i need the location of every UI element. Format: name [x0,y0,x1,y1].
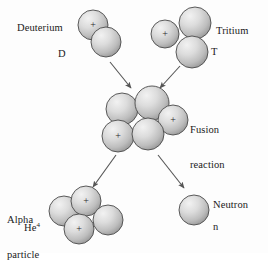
arrow-tritium-to-fusion [160,66,180,88]
label-deuterium-symbol: D [58,48,66,60]
neutron-sphere-tritium-2 [176,36,208,68]
label-neutron-symbol: n [213,221,218,233]
particles-group: ++++++ [49,7,211,244]
label-helium-symbol: He4 [24,222,40,234]
arrow-deuterium-to-fusion [110,62,131,88]
helium-element-symbol: He [24,222,36,233]
proton-charge-sign-tritium-0: + [162,28,168,39]
neutron-sphere-fusion-reaction-4 [132,118,164,150]
proton-charge-sign-deuterium-0: + [90,19,96,30]
neutron-sphere-alpha-particle-2 [93,205,123,235]
proton-charge-sign-fusion-reaction-2: + [170,114,176,125]
proton-charge-sign-alpha-particle-3: + [76,223,82,234]
label-neutron: Neutron [213,199,248,211]
helium-mass-number: 4 [36,221,40,229]
particle-group-fusion-reaction: ++ [102,86,188,152]
label-fusion-line1: Fusion [190,124,225,136]
label-alpha-line2: particle [7,249,39,261]
label-tritium-symbol: T [211,46,218,58]
arrow-fusion-to-alpha [93,155,116,187]
label-fusion-line2: reaction [190,159,225,171]
neutron-sphere-tritium-1 [179,7,211,39]
particle-group-deuterium: + [78,10,121,57]
label-fusion-reaction: Fusion reaction [190,100,225,194]
label-tritium: Tritium [216,25,248,37]
particle-group-neutron [179,195,209,225]
neutron-sphere-neutron-0 [179,195,209,225]
neutron-sphere-deuterium-1 [91,27,121,57]
particle-group-tritium: + [151,7,211,68]
particle-group-alpha-particle: ++ [49,186,123,244]
arrow-fusion-to-neutron [158,155,184,188]
proton-charge-sign-fusion-reaction-3: + [115,130,121,141]
proton-charge-sign-alpha-particle-1: + [83,195,89,206]
label-deuterium: Deuterium [17,22,63,34]
